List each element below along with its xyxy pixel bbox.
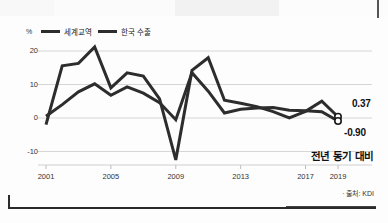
x-tick-label: 2013 [224,172,258,181]
chart-page: % 세계교역 한국 수출 20100-10 200120052009201320… [0,0,388,223]
plot-area [0,0,388,223]
x-tick-label: 2019 [321,172,355,181]
source-note: · 출처: KDI [342,188,374,198]
frame-bottom-border [8,207,376,209]
x-tick-label: 2001 [29,172,63,181]
end-value-korea-exports: -0.90 [344,127,366,138]
axis-note: 전년 동기 대비 [311,148,374,163]
frame-left-border [8,195,10,209]
chart-svg [0,0,388,223]
x-tick-label: 2005 [94,172,128,181]
y-tick-label: 0 [16,113,38,122]
y-tick-label: -10 [16,147,38,156]
x-tick-label: 2009 [159,172,193,181]
x-tick-label: 2017 [289,172,323,181]
y-tick-label: 10 [16,80,38,89]
y-tick-label: 20 [16,46,38,55]
end-value-world-trade: 0.37 [352,98,371,109]
